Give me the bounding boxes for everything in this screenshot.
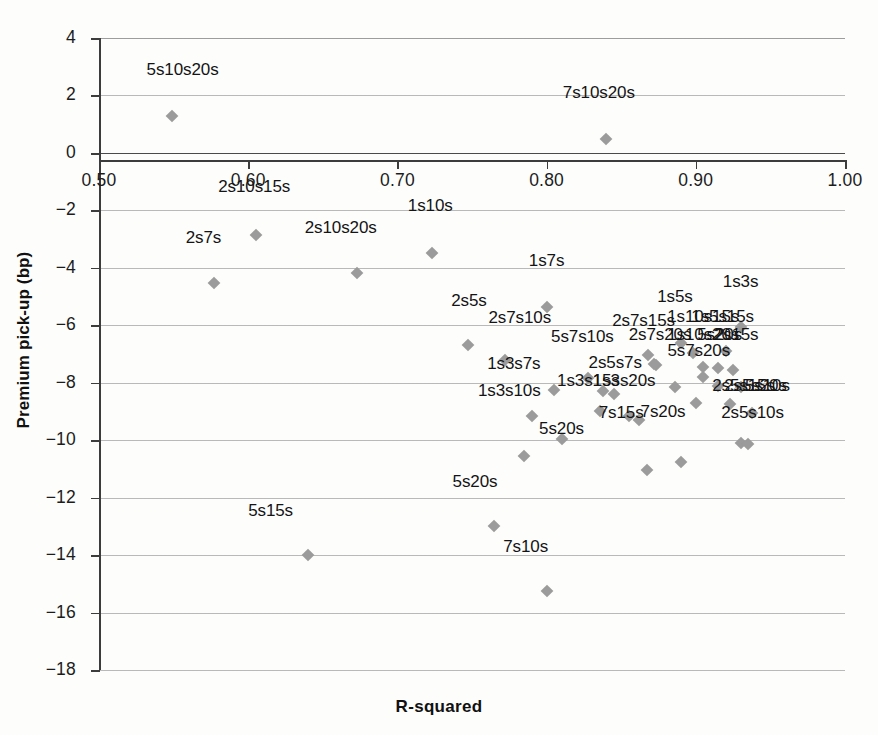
data-point-label: 5s20s xyxy=(453,472,498,492)
x-axis-tick xyxy=(397,161,399,169)
y-axis-tick-label: −10 xyxy=(14,429,76,450)
data-point-label: 1s10s xyxy=(408,196,453,216)
data-point-label: 2s10s20s xyxy=(305,218,377,238)
grid-line xyxy=(99,38,845,39)
data-point-label: 2s7s xyxy=(186,228,222,248)
data-point-label: 5s10s20s xyxy=(147,60,219,80)
y-axis-tick xyxy=(91,95,100,97)
x-axis-tick xyxy=(845,161,847,169)
data-point-label: 2s5s15s xyxy=(712,376,775,396)
grid-line xyxy=(99,440,845,441)
data-point-label: 7s10s xyxy=(503,537,548,557)
y-axis-tick xyxy=(91,498,100,500)
y-axis-tick xyxy=(91,555,100,557)
grid-line xyxy=(99,555,845,556)
data-point-label: 1s3s7s xyxy=(487,354,540,374)
y-axis-tick-label: −16 xyxy=(14,602,76,623)
grid-line xyxy=(99,210,845,211)
data-point-label: 1s3s xyxy=(723,272,759,292)
data-point-label: 7s10s20s xyxy=(563,83,635,103)
grid-line xyxy=(99,95,845,96)
y-axis-tick-label: 2 xyxy=(14,84,76,105)
y-axis-tick xyxy=(91,440,100,442)
data-point-label: 1s5s xyxy=(657,287,693,307)
x-axis-tick-label: 0.90 xyxy=(656,170,736,191)
grid-line xyxy=(99,268,845,269)
y-axis-tick xyxy=(91,670,100,672)
x-axis-tick-label: 0.80 xyxy=(507,170,587,191)
data-point-label: 7s20s xyxy=(641,402,686,422)
y-axis-tick-label: −4 xyxy=(14,257,76,278)
data-point-label: 1s7s xyxy=(529,251,565,271)
y-axis-tick xyxy=(91,38,100,40)
plot-area xyxy=(99,38,845,670)
x-axis-tick-label: 0.70 xyxy=(357,170,437,191)
y-axis-tick xyxy=(91,383,100,385)
x-axis-tick xyxy=(547,161,549,169)
y-axis-tick xyxy=(91,210,100,212)
grid-line xyxy=(99,670,845,671)
y-axis-tick xyxy=(91,325,100,327)
data-point-label: 5s7s10s xyxy=(551,327,614,347)
y-axis-spine xyxy=(99,38,101,670)
x-axis-tick-label: 0.50 xyxy=(59,170,139,191)
grid-line xyxy=(99,498,845,499)
y-axis-tick xyxy=(91,613,100,615)
grid-line xyxy=(99,153,845,154)
data-point-label: 2s7s10s xyxy=(488,308,551,328)
x-axis-title: R-squared xyxy=(0,697,878,717)
y-axis-tick-label: −8 xyxy=(14,372,76,393)
x-axis-tick xyxy=(248,161,250,169)
data-point-label: 1s3s20s xyxy=(593,371,656,391)
y-axis-tick-label: 4 xyxy=(14,27,76,48)
data-point-label: 2s10s15s xyxy=(218,177,290,197)
data-point-label: 1s3s10s xyxy=(478,381,541,401)
x-axis-tick xyxy=(696,161,698,169)
y-axis-tick-label: −2 xyxy=(14,199,76,220)
data-point-label: 5s20s xyxy=(539,419,584,439)
y-axis-tick-label: −12 xyxy=(14,487,76,508)
x-axis-spine xyxy=(99,160,847,162)
y-axis-tick-label: 0 xyxy=(14,142,76,163)
data-point-label: 2s5s xyxy=(451,291,487,311)
data-point-label: 5s7s20s xyxy=(667,341,730,361)
data-point-label: 2s5s7s xyxy=(589,353,642,373)
y-axis-tick-label: −6 xyxy=(14,314,76,335)
data-point-label: 5s15s xyxy=(248,501,293,521)
y-axis-tick-label: −18 xyxy=(14,659,76,680)
data-point-label: 1s5s15s xyxy=(691,307,754,327)
x-axis-tick xyxy=(99,161,101,169)
x-axis-tick-label: 1.00 xyxy=(805,170,878,191)
y-axis-tick-label: −14 xyxy=(14,544,76,565)
y-axis-tick xyxy=(91,153,100,155)
data-point-label: 7s15s xyxy=(599,403,644,423)
data-point-label: 2s5s10s xyxy=(721,403,784,423)
y-axis-tick xyxy=(91,268,100,270)
scatter-chart: Premium pick-up (bp) R-squared 420−2−4−6… xyxy=(0,0,878,735)
grid-line xyxy=(99,613,845,614)
